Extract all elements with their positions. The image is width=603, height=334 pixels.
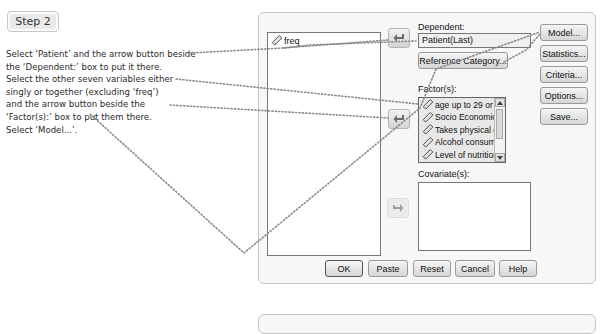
arrow-left-icon bbox=[393, 33, 405, 43]
paste-button[interactable]: Paste bbox=[368, 260, 408, 277]
scroll-thumb[interactable] bbox=[496, 109, 503, 139]
covariates-label: Covariate(s): bbox=[418, 169, 470, 179]
instruction-line: and the arrow button beside the bbox=[6, 98, 206, 111]
scale-ruler-icon bbox=[422, 124, 433, 135]
factor-item[interactable]: Takes physical e... bbox=[422, 124, 505, 135]
statistics-button[interactable]: Statistics... bbox=[540, 45, 588, 62]
next-dialog-frame bbox=[258, 314, 596, 334]
move-to-covariates-button[interactable] bbox=[387, 198, 409, 218]
scale-ruler-icon bbox=[422, 112, 433, 123]
caret-down-icon bbox=[497, 156, 503, 160]
options-button[interactable]: Options... bbox=[540, 87, 588, 104]
cancel-button[interactable]: Cancel bbox=[455, 260, 495, 277]
variable-list[interactable]: freq bbox=[267, 32, 381, 256]
step-badge: Step 2 bbox=[7, 11, 59, 32]
covariates-list[interactable] bbox=[418, 182, 531, 251]
move-to-factors-button[interactable] bbox=[388, 109, 410, 129]
factors-list[interactable]: age up to 29 or 3... Socio Economic ... … bbox=[418, 97, 506, 163]
dependent-field[interactable]: Patient(Last) bbox=[418, 33, 531, 48]
help-button[interactable]: Help bbox=[499, 260, 537, 277]
caret-up-icon bbox=[497, 101, 503, 105]
arrow-left-icon bbox=[393, 114, 405, 124]
model-button[interactable]: Model... bbox=[540, 24, 588, 41]
scroll-down-button[interactable] bbox=[495, 153, 505, 162]
scale-ruler-icon bbox=[422, 149, 433, 160]
factors-label: Factor(s): bbox=[418, 84, 457, 94]
instruction-line: singly or together (excluding ‘freq’) bbox=[6, 86, 206, 99]
ok-button[interactable]: OK bbox=[325, 260, 363, 277]
variable-label: freq bbox=[284, 36, 300, 46]
arrow-right-icon bbox=[392, 203, 404, 213]
instruction-line: Select ‘Patient’ and the arrow button be… bbox=[6, 48, 206, 61]
instruction-line: ‘Factor(s):’ box to put them there. bbox=[6, 111, 206, 124]
instruction-line: the ‘Dependent:’ box to put it there. bbox=[6, 61, 206, 74]
scroll-up-button[interactable] bbox=[495, 98, 505, 107]
dependent-label: Dependent: bbox=[418, 22, 465, 32]
criteria-button[interactable]: Criteria... bbox=[540, 66, 588, 83]
scale-ruler-icon bbox=[271, 35, 282, 46]
step-label: Step 2 bbox=[10, 14, 56, 29]
factors-scrollbar[interactable] bbox=[494, 98, 505, 162]
instructions: Select ‘Patient’ and the arrow button be… bbox=[6, 48, 206, 136]
reference-category-button[interactable]: Reference Category... bbox=[418, 52, 508, 69]
instruction-line: Select the other seven variables either bbox=[6, 73, 206, 86]
reset-button[interactable]: Reset bbox=[413, 260, 451, 277]
instruction-line: Select ‘Model...’. bbox=[6, 124, 206, 137]
save-button[interactable]: Save... bbox=[540, 108, 588, 125]
scale-ruler-icon bbox=[422, 99, 433, 110]
scale-ruler-icon bbox=[422, 137, 433, 148]
variable-item-freq[interactable]: freq bbox=[271, 35, 300, 46]
move-to-dependent-button[interactable] bbox=[388, 28, 410, 48]
